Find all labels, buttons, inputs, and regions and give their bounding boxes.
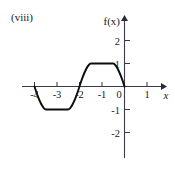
x-axis-ticks <box>35 82 148 87</box>
x-tick-label--3: -3 <box>53 89 62 100</box>
x-tick-label-0: 0 <box>116 89 121 100</box>
x-tick-label-1: 1 <box>144 89 149 100</box>
y-tick-label--2: -2 <box>111 128 120 139</box>
y-tick-label--1: -1 <box>111 105 120 116</box>
y-axis-label: f(x) <box>104 15 121 28</box>
x-tick-label--1: -1 <box>98 89 107 100</box>
y-axis-arrow-icon <box>121 15 128 21</box>
y-tick-label-1: 1 <box>115 59 120 70</box>
y-tick-label-2: 2 <box>115 36 120 47</box>
x-tick-label--4: -4 <box>30 89 39 100</box>
graph-figure: (viii) -4 -3 -2 -1 0 <box>0 0 175 169</box>
plot-area: -4 -3 -2 -1 0 1 2 1 -1 -2 f(x) x <box>0 0 175 169</box>
x-axis-label: x <box>163 89 169 101</box>
x-tick-label--2: -2 <box>75 89 84 100</box>
